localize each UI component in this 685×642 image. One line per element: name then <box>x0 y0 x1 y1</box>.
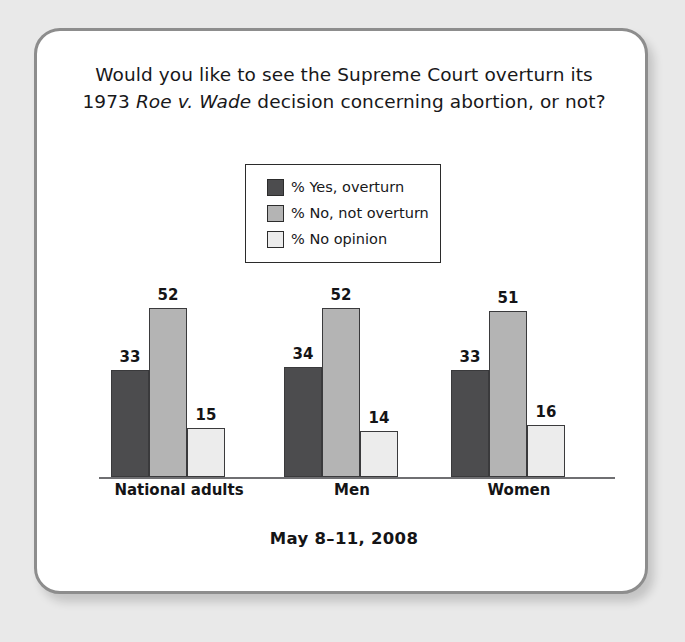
bar-wrap-no-not-overturn: 51 <box>489 281 527 477</box>
category-label-women: Women <box>419 481 619 499</box>
bar-group-bars: 33 51 16 <box>451 281 587 477</box>
bar-wrap-yes-overturn: 34 <box>284 281 322 477</box>
bar-group-women: 33 51 16 Women <box>451 281 587 477</box>
bar-wrap-no-opinion: 14 <box>360 281 398 477</box>
bar-no-not-overturn[interactable] <box>489 311 527 477</box>
bar-no-opinion[interactable] <box>187 428 225 477</box>
bar-wrap-no-opinion: 16 <box>527 281 565 477</box>
bar-group-bars: 34 52 14 <box>284 281 420 477</box>
bar-group-men: 34 52 14 Men <box>284 281 420 477</box>
bar-wrap-no-opinion: 15 <box>187 281 225 477</box>
bar-wrap-yes-overturn: 33 <box>451 281 489 477</box>
bar-yes-overturn[interactable] <box>111 370 149 477</box>
bar-value-no-opinion: 14 <box>349 409 409 427</box>
bar-no-not-overturn[interactable] <box>149 308 187 477</box>
bar-yes-overturn[interactable] <box>451 370 489 477</box>
bar-wrap-yes-overturn: 33 <box>111 281 149 477</box>
chart-card: Would you like to see the Supreme Court … <box>34 28 648 594</box>
bar-no-not-overturn[interactable] <box>322 308 360 477</box>
bar-wrap-no-not-overturn: 52 <box>322 281 360 477</box>
chart-footer-date: May 8–11, 2008 <box>63 529 625 548</box>
bar-no-opinion[interactable] <box>527 425 565 477</box>
bar-value-no-opinion: 16 <box>516 403 576 421</box>
bar-value-no-opinion: 15 <box>176 406 236 424</box>
bar-group-national-adults: 33 52 15 National adults <box>111 281 247 477</box>
chart-x-axis-line <box>99 477 615 479</box>
chart-plot-area: 33 52 15 National adults 34 <box>37 31 651 597</box>
bar-group-bars: 33 52 15 <box>111 281 247 477</box>
bar-no-opinion[interactable] <box>360 431 398 477</box>
bar-wrap-no-not-overturn: 52 <box>149 281 187 477</box>
bar-yes-overturn[interactable] <box>284 367 322 477</box>
category-label-national-adults: National adults <box>79 481 279 499</box>
